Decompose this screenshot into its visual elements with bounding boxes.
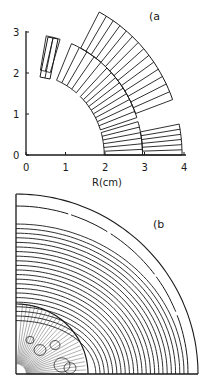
conductor-edge xyxy=(81,12,100,48)
block-arc xyxy=(80,97,100,130)
figure: 012340123 (a R(cm) (b xyxy=(0,0,208,384)
field-contour xyxy=(16,311,104,374)
coil-loop xyxy=(50,341,60,350)
conductor-edge xyxy=(131,84,167,102)
conductor-edge xyxy=(133,92,169,108)
conductor-edge xyxy=(89,83,120,107)
conductor-edge xyxy=(86,78,115,103)
conductor-edge xyxy=(62,47,80,82)
field-contour xyxy=(16,224,184,374)
conductor-edge xyxy=(40,36,46,70)
y-tick-label: 3 xyxy=(13,27,19,38)
x-axis-label: R(cm) xyxy=(92,177,122,188)
conductor-edge xyxy=(142,150,181,151)
coil-field-line xyxy=(18,306,31,365)
x-tick-label: 4 xyxy=(181,162,187,173)
panel-a: 012340123 (a R(cm) xyxy=(13,10,187,188)
panel-b: (b xyxy=(16,194,198,374)
conductor-edge xyxy=(86,16,106,51)
conductor-edge xyxy=(104,149,142,151)
conductor-edge xyxy=(128,76,163,96)
x-tick-label: 1 xyxy=(63,162,69,173)
layer-outer-block-2 xyxy=(81,12,173,114)
panel-a-label: (a xyxy=(149,10,160,23)
coil-field-line xyxy=(19,307,35,365)
conductor-edge xyxy=(83,73,111,100)
conductor-edge xyxy=(104,144,142,148)
y-tick-label: 2 xyxy=(13,68,19,79)
outer-boundary xyxy=(16,194,198,374)
layer-inner-block-3 xyxy=(57,44,101,93)
x-tick-label: 0 xyxy=(23,162,29,173)
layer-inner-block-1 xyxy=(101,122,142,155)
field-contour xyxy=(16,265,146,374)
field-contour xyxy=(16,288,125,374)
panel-b-label: (b xyxy=(153,218,164,231)
x-tick-label: 3 xyxy=(142,162,148,173)
conductor-edge xyxy=(102,127,139,136)
conductor-edge xyxy=(135,100,172,114)
coil-field-line xyxy=(17,304,23,364)
field-contour xyxy=(16,229,180,374)
y-tick-label: 0 xyxy=(13,150,19,161)
conductor-edge xyxy=(57,44,72,81)
conductor-edge xyxy=(142,139,181,143)
conductor-edge xyxy=(67,52,87,86)
x-tick-label: 2 xyxy=(102,162,108,173)
conductor-edge xyxy=(142,145,181,148)
y-tick-label: 1 xyxy=(13,109,19,120)
layer-outer-block-1 xyxy=(140,124,182,155)
